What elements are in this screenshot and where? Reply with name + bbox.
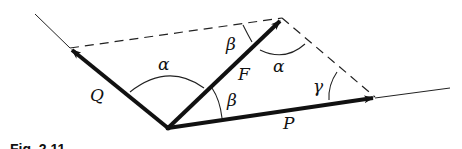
label-f: F	[238, 66, 250, 83]
beta-arc-top	[243, 25, 252, 42]
dashed-right-line	[282, 18, 375, 97]
alpha-arc-right	[260, 44, 305, 55]
vector-q	[72, 50, 168, 128]
label-alpha-right: α	[273, 58, 284, 75]
diagram-canvas	[0, 0, 462, 149]
label-p: P	[283, 115, 294, 132]
vector-p	[168, 98, 373, 128]
p-extension-line	[375, 88, 450, 98]
label-gamma: γ	[313, 78, 323, 95]
label-alpha-left: α	[158, 56, 169, 73]
q-extension-line	[35, 14, 70, 48]
force-parallelogram-diagram: Q F P α α β β γ Fig. 2.11	[0, 0, 462, 149]
label-q: Q	[90, 87, 104, 104]
gamma-arc	[329, 72, 337, 100]
label-beta-bottom: β	[227, 92, 237, 109]
vector-f	[168, 21, 280, 128]
label-beta-top: β	[226, 36, 236, 53]
figure-caption: Fig. 2.11	[10, 141, 65, 149]
dashed-top-line	[70, 18, 282, 48]
beta-arc-bottom	[212, 88, 222, 118]
alpha-arc-left	[130, 76, 204, 92]
